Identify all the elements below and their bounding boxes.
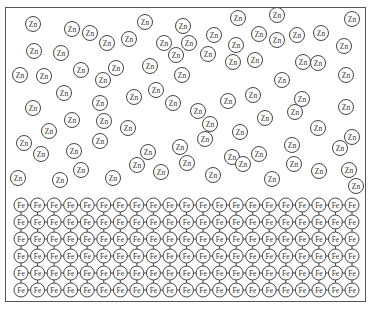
svg-text:Zn: Zn <box>210 31 219 40</box>
iron-atom: Fe <box>196 215 210 229</box>
svg-text:Zn: Zn <box>152 86 161 95</box>
svg-text:Zn: Zn <box>112 64 121 73</box>
svg-text:Fe: Fe <box>315 269 323 278</box>
svg-text:Zn: Zn <box>77 66 86 75</box>
svg-text:Fe: Fe <box>17 235 25 244</box>
svg-text:Fe: Fe <box>17 218 25 227</box>
svg-text:Fe: Fe <box>183 269 191 278</box>
svg-text:Zn: Zn <box>317 29 326 38</box>
svg-text:Fe: Fe <box>199 218 207 227</box>
iron-atom: Fe <box>262 198 276 212</box>
zinc-atom: Zn <box>53 173 68 188</box>
iron-atom: Fe <box>113 283 127 297</box>
iron-atom: Fe <box>196 232 210 246</box>
iron-atom: Fe <box>163 283 177 297</box>
zinc-atom: Zn <box>252 27 267 42</box>
svg-text:Fe: Fe <box>150 286 158 295</box>
zinc-atom: Zn <box>333 141 348 156</box>
iron-atom: Fe <box>80 232 94 246</box>
iron-atom: Fe <box>80 249 94 263</box>
svg-text:Fe: Fe <box>100 201 108 210</box>
iron-atom: Fe <box>180 249 194 263</box>
iron-atom: Fe <box>312 283 326 297</box>
svg-text:Fe: Fe <box>166 218 174 227</box>
svg-text:Zn: Zn <box>342 103 351 112</box>
svg-text:Fe: Fe <box>249 218 257 227</box>
svg-text:Zn: Zn <box>299 58 308 67</box>
svg-text:Fe: Fe <box>266 269 274 278</box>
zinc-atom: Zn <box>100 36 115 51</box>
svg-text:Fe: Fe <box>232 269 240 278</box>
svg-text:Zn: Zn <box>228 153 237 162</box>
svg-text:Fe: Fe <box>34 218 42 227</box>
iron-atom: Fe <box>196 249 210 263</box>
svg-text:Fe: Fe <box>17 201 25 210</box>
zinc-atom: Zn <box>314 26 329 41</box>
iron-atom: Fe <box>262 283 276 297</box>
iron-atom: Fe <box>113 232 127 246</box>
svg-text:Fe: Fe <box>67 201 75 210</box>
svg-text:Zn: Zn <box>14 174 23 183</box>
iron-atom: Fe <box>295 266 309 280</box>
zinc-atom: Zn <box>74 163 89 178</box>
svg-text:Fe: Fe <box>216 286 224 295</box>
svg-text:Fe: Fe <box>83 218 91 227</box>
iron-atom: Fe <box>229 249 243 263</box>
svg-text:Zn: Zn <box>239 160 248 169</box>
zinc-atom: Zn <box>67 144 82 159</box>
svg-text:Zn: Zn <box>100 117 109 126</box>
svg-text:Fe: Fe <box>249 286 257 295</box>
zinc-atom: Zn <box>252 147 267 162</box>
iron-atom: Fe <box>279 266 293 280</box>
svg-text:Fe: Fe <box>117 218 125 227</box>
iron-atom: Fe <box>64 266 78 280</box>
iron-atom: Fe <box>279 283 293 297</box>
svg-text:Zn: Zn <box>160 39 169 48</box>
svg-text:Zn: Zn <box>60 89 69 98</box>
zinc-atom: Zn <box>173 140 188 155</box>
svg-text:Fe: Fe <box>332 235 340 244</box>
svg-text:Fe: Fe <box>199 235 207 244</box>
svg-text:Zn: Zn <box>204 50 213 59</box>
iron-atom: Fe <box>64 215 78 229</box>
zinc-atom: Zn <box>258 111 273 126</box>
zinc-atom: Zn <box>34 147 49 162</box>
svg-text:Fe: Fe <box>332 201 340 210</box>
svg-text:Fe: Fe <box>199 286 207 295</box>
svg-text:Zn: Zn <box>268 175 277 184</box>
zinc-atom: Zn <box>296 55 311 70</box>
zinc-atom: Zn <box>285 138 300 153</box>
zinc-atom: Zn <box>93 134 108 149</box>
zinc-atom: Zn <box>233 125 248 140</box>
svg-text:Fe: Fe <box>83 201 91 210</box>
svg-text:Zn: Zn <box>57 49 66 58</box>
svg-text:Fe: Fe <box>133 286 141 295</box>
iron-atom: Fe <box>64 249 78 263</box>
iron-atom: Fe <box>146 215 160 229</box>
svg-text:Fe: Fe <box>249 252 257 261</box>
svg-text:Zn: Zn <box>229 58 238 67</box>
svg-text:Fe: Fe <box>50 286 58 295</box>
svg-text:Fe: Fe <box>50 201 58 210</box>
zinc-atom: Zn <box>248 53 263 68</box>
iron-atom: Fe <box>279 215 293 229</box>
svg-text:Fe: Fe <box>232 252 240 261</box>
zinc-atom: Zn <box>287 157 302 172</box>
iron-atom: Fe <box>80 198 94 212</box>
svg-text:Zn: Zn <box>255 150 264 159</box>
svg-text:Fe: Fe <box>166 252 174 261</box>
iron-atom: Fe <box>113 198 127 212</box>
svg-text:Fe: Fe <box>133 201 141 210</box>
svg-text:Zn: Zn <box>293 31 302 40</box>
svg-text:Fe: Fe <box>150 201 158 210</box>
svg-text:Fe: Fe <box>348 201 356 210</box>
iron-atom: Fe <box>295 283 309 297</box>
svg-text:Zn: Zn <box>348 133 357 142</box>
iron-atom: Fe <box>64 198 78 212</box>
zinc-atom: Zn <box>138 15 153 30</box>
iron-atom: Fe <box>97 198 111 212</box>
iron-atom: Fe <box>328 249 342 263</box>
zinc-atom: Zn <box>122 32 137 47</box>
zinc-atom: Zn <box>42 124 57 139</box>
zinc-atom: Zn <box>290 28 305 43</box>
